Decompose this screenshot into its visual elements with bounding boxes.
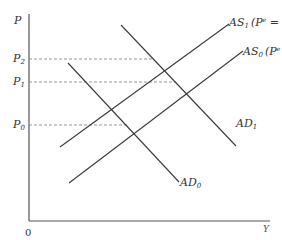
price-label-p0: P0 [12, 118, 25, 132]
ad0-curve [68, 63, 179, 182]
ad1-label: AD1 [235, 117, 257, 131]
x-axis-label: Y [263, 224, 270, 234]
price-label-p1: P1 [12, 75, 25, 89]
as0-curve [69, 51, 243, 183]
ad1-curve [121, 25, 236, 146]
y-axis-label: P [13, 14, 22, 27]
as-ad-diagram: P 0 Y P2 P1 P0 AS1(Pe = P1) AS0(Pe = P0)… [0, 0, 282, 240]
as1-curve [60, 24, 229, 147]
ad0-label: AD0 [179, 176, 202, 190]
as0-label: AS0(Pe = P0) [242, 45, 282, 59]
as1-label: AS1(Pe = P1) [228, 16, 282, 30]
price-label-p2: P2 [12, 52, 25, 66]
origin-label: 0 [25, 227, 31, 238]
